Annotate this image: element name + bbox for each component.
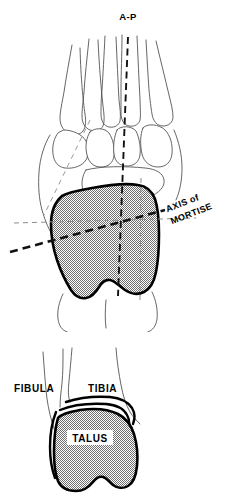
calcaneus-bone	[58, 294, 67, 332]
talus-bone-dorsal	[51, 184, 159, 298]
calcaneus-medial-border	[148, 292, 157, 332]
metatarsal-group	[60, 35, 173, 135]
lower-panel-anterior-ankle: FIBULA TIBIA TALUS	[14, 348, 140, 491]
calcaneus-midline-crease	[105, 300, 106, 328]
medial-cuneiform-bone	[141, 125, 173, 167]
anatomical-figure: A-P AXIS of MORTISE	[0, 0, 225, 500]
metatarsal-1-bone	[146, 40, 173, 126]
fibula-medial-border	[60, 349, 63, 407]
intermediate-cuneiform-bone	[114, 127, 141, 166]
cuneiform-cuboid-group	[53, 125, 172, 168]
upper-panel-dorsal-foot: A-P AXIS of MORTISE	[10, 11, 214, 341]
fibula-label: FIBULA	[14, 383, 54, 394]
a-p-axis-label: A-P	[119, 11, 137, 22]
talus-label: TALUS	[72, 433, 108, 444]
talus-bone-anterior	[54, 409, 137, 491]
ankle-mortise-diagram: A-P AXIS of MORTISE	[0, 0, 225, 500]
lateral-cuneiform-bone	[86, 129, 114, 167]
metatarsal-2-bone	[121, 35, 140, 126]
tibia-medial-border	[116, 348, 140, 424]
calcaneus-inferior-border	[67, 332, 148, 341]
metatarsal-5-bone	[60, 45, 86, 135]
tibia-label: TIBIA	[88, 383, 117, 394]
mortise-axis-label-group: AXIS of MORTISE	[164, 189, 213, 226]
medial-foot-border	[174, 130, 182, 200]
cuboid-bone	[53, 130, 89, 168]
tibia-lateral-border	[68, 348, 72, 402]
